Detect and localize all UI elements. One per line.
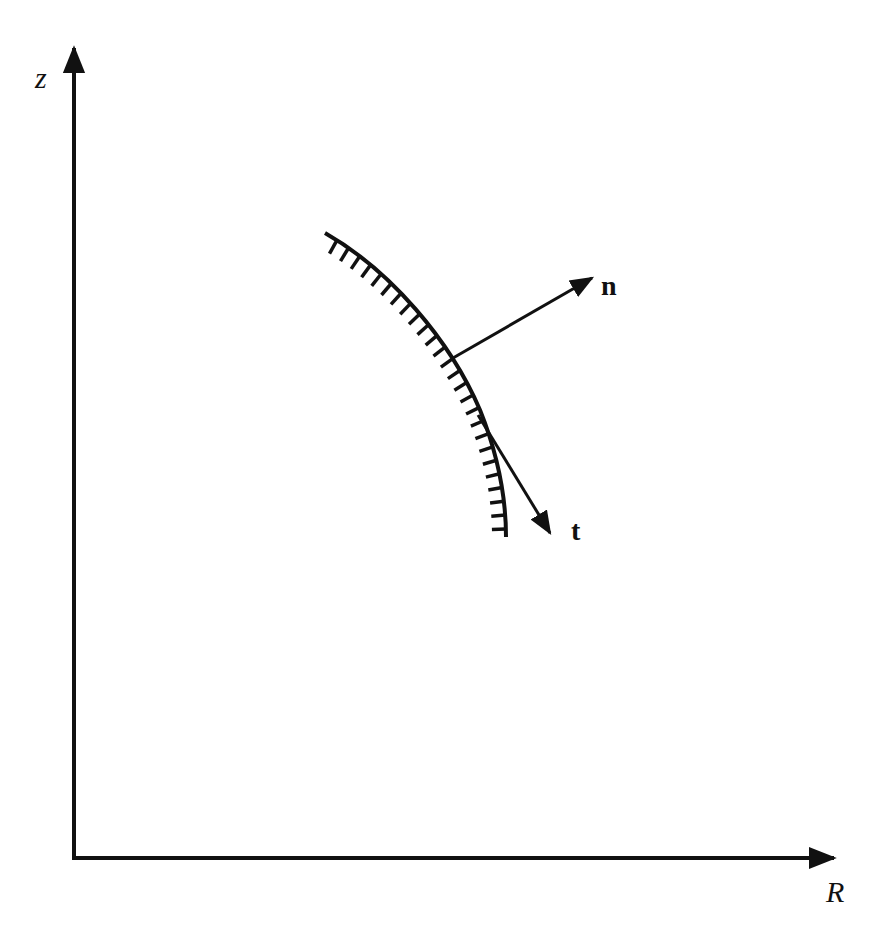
hatch-mark <box>466 408 479 414</box>
hatch-mark <box>448 371 460 379</box>
hatch-mark <box>441 359 453 368</box>
axes <box>72 48 834 860</box>
tangent-arrow <box>478 415 550 533</box>
hatch-mark <box>488 488 502 491</box>
hatch-mark <box>426 336 437 346</box>
normal-arrow <box>453 278 592 358</box>
normal-vector: n <box>453 270 617 358</box>
hatch-mark <box>400 303 410 314</box>
hatch-mark <box>372 274 381 286</box>
hatch-mark <box>475 434 488 439</box>
normal-label: n <box>601 270 617 301</box>
hatch-mark <box>418 325 429 335</box>
hatch-mark <box>351 256 360 269</box>
hatch-mark <box>490 501 504 503</box>
hatch-mark <box>454 383 466 391</box>
hatch-mark <box>486 474 500 477</box>
z-axis-label: z <box>34 61 47 94</box>
boundary-hatching <box>330 240 506 529</box>
hatch-mark <box>434 347 446 356</box>
diagram-canvas: z R n t <box>0 0 896 949</box>
boundary-curve <box>325 233 506 537</box>
hatch-mark <box>362 265 371 277</box>
tangent-label: t <box>571 515 581 546</box>
hatch-mark <box>330 240 338 254</box>
hatch-mark <box>461 395 474 402</box>
hatch-mark <box>491 515 505 516</box>
hatch-mark <box>483 460 497 464</box>
hatch-mark <box>409 314 420 324</box>
tangent-vector: t <box>478 415 581 546</box>
hatch-mark <box>382 284 392 296</box>
hatch-mark <box>391 293 401 304</box>
r-axis-label: R <box>825 875 844 908</box>
hatch-mark <box>341 248 349 261</box>
hatch-mark <box>479 447 492 452</box>
